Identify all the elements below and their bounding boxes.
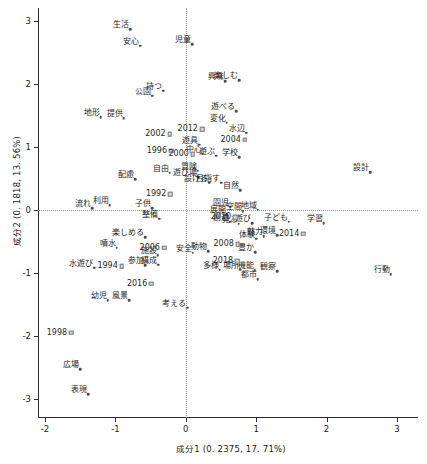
point-label: 広場: [63, 361, 79, 369]
point-label: 幼児: [91, 292, 107, 300]
y-tick-3: [34, 21, 38, 22]
point-label: 考える: [162, 300, 186, 308]
dot-marker-icon: [225, 122, 228, 125]
x-tick-0: [186, 418, 187, 422]
point-label: 楽しめる: [112, 229, 144, 237]
dot-marker-icon: [245, 132, 248, 135]
point-label: 子ども: [264, 214, 288, 222]
dot-marker-icon: [255, 238, 258, 241]
square-marker-icon: [236, 242, 241, 247]
point-label: 行動: [374, 266, 390, 274]
dot-marker-icon: [123, 117, 126, 120]
scatter-plot-area: 生活安心児童興味楽しむ公園持つ遊べる地形提供変化水辺遊具中心遊ぶ学校設計自由冒険…: [38, 8, 418, 418]
point-label: 1998: [47, 329, 67, 337]
point-label: 2018: [213, 257, 233, 265]
x-ticklabel--2: -2: [41, 424, 49, 434]
dot-marker-icon: [276, 270, 279, 273]
point-label: 水遊び: [69, 260, 93, 268]
dot-marker-icon: [79, 368, 82, 371]
dot-marker-icon: [151, 207, 154, 210]
x-ticklabel--1: -1: [111, 424, 119, 434]
point-label: 環境: [260, 227, 276, 235]
point-label: 2016: [127, 280, 147, 288]
point-label: 生活: [113, 21, 129, 29]
point-label: 変化: [210, 115, 226, 123]
point-label: 子供: [135, 200, 151, 208]
square-marker-icon: [168, 192, 173, 197]
point-label: 2000: [168, 150, 188, 158]
y-tick--1: [34, 273, 38, 274]
square-marker-icon: [243, 138, 248, 143]
dot-marker-icon: [93, 267, 96, 270]
point-label: 遊ぶ: [199, 148, 215, 156]
x-tick-3: [397, 418, 398, 422]
point-label: 遊具: [182, 137, 198, 145]
point-label: 自由: [153, 165, 169, 173]
square-marker-icon: [235, 259, 240, 264]
point-label: 2008: [213, 240, 233, 248]
dot-marker-icon: [186, 306, 189, 309]
point-label: 遊べる: [211, 103, 235, 111]
point-label: 1994: [97, 262, 117, 270]
point-label: 楽しむ: [214, 72, 238, 80]
dot-marker-icon: [91, 207, 94, 210]
point-label: 提供: [107, 110, 123, 118]
square-marker-icon: [167, 132, 172, 137]
point-label: 利用: [93, 197, 109, 205]
dot-marker-icon: [218, 268, 221, 271]
y-tick--2: [34, 336, 38, 337]
dot-marker-icon: [239, 189, 242, 192]
dot-marker-icon: [207, 250, 210, 253]
y-tick-1: [34, 147, 38, 148]
y-tick-0: [34, 210, 38, 211]
dot-marker-icon: [108, 204, 111, 207]
point-label: 構成: [141, 257, 157, 265]
x-ticklabel-3: 3: [394, 424, 399, 434]
dot-marker-icon: [224, 80, 227, 83]
dot-marker-icon: [158, 217, 161, 220]
dot-marker-icon: [129, 28, 132, 31]
point-label: 空間: [226, 203, 242, 211]
point-label: 流れ: [75, 200, 91, 208]
x-ticklabel-0: 0: [183, 424, 188, 434]
point-label: 2002: [145, 130, 165, 138]
point-label: 2010: [211, 213, 231, 221]
point-label: 自然: [223, 182, 239, 190]
point-label: 観察: [260, 263, 276, 271]
square-marker-icon: [301, 232, 306, 237]
square-marker-icon: [200, 127, 205, 132]
point-label: 児童: [175, 36, 191, 44]
square-marker-icon: [119, 264, 124, 269]
dot-marker-icon: [238, 156, 241, 159]
point-label: 動物: [191, 243, 207, 251]
point-label: 2004: [221, 136, 241, 144]
dot-marker-icon: [322, 222, 325, 225]
point-label: 風景: [112, 292, 128, 300]
point-label: 1996: [147, 147, 167, 155]
point-label: 2006: [140, 244, 160, 252]
square-marker-icon: [69, 331, 74, 336]
x-tick--1: [115, 418, 116, 422]
square-marker-icon: [149, 281, 154, 286]
point-label: 地形: [84, 109, 100, 117]
dot-marker-icon: [192, 251, 195, 254]
dot-marker-icon: [256, 278, 259, 281]
dot-marker-icon: [128, 299, 131, 302]
dot-marker-icon: [254, 251, 257, 254]
dot-marker-icon: [191, 43, 194, 46]
x-tick--2: [45, 418, 46, 422]
dot-marker-icon: [144, 236, 147, 239]
dot-marker-icon: [157, 263, 160, 266]
x-tick-1: [256, 418, 257, 422]
dot-marker-icon: [87, 393, 90, 396]
y-ticklabel-3: 3: [16, 16, 31, 26]
x-ticklabel-1: 1: [253, 424, 258, 434]
y-tick--3: [34, 399, 38, 400]
point-label: 水辺: [229, 125, 245, 133]
point-label: 2012: [178, 125, 198, 133]
x-axis-label: 成分1 (0. 2375, 17. 71%): [176, 442, 286, 454]
dot-marker-icon: [99, 116, 102, 119]
point-label: 学習: [307, 215, 323, 223]
dot-marker-icon: [251, 222, 254, 225]
y-ticklabel--1: -1: [16, 268, 31, 278]
